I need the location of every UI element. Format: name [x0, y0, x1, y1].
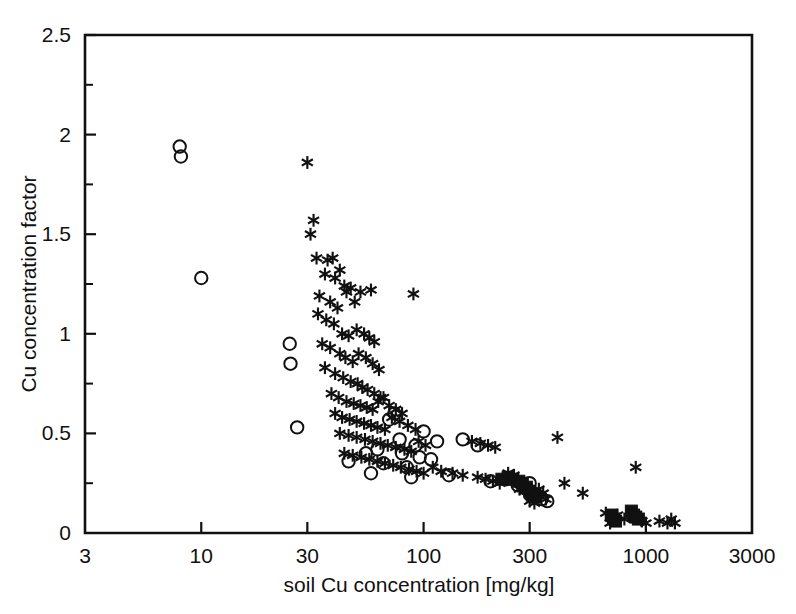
y-tick-label: 1	[59, 322, 71, 345]
point-asterisk	[365, 284, 376, 297]
point-asterisk	[319, 361, 330, 374]
point-asterisk	[353, 347, 364, 360]
y-tick-label: 1.5	[42, 222, 71, 245]
y-axis-label: Cu concentration factor	[17, 175, 40, 392]
point-asterisk	[333, 391, 344, 404]
point-circle	[195, 272, 207, 284]
point-asterisk	[325, 341, 336, 354]
point-asterisk	[330, 367, 341, 380]
y-tick-label: 2	[59, 123, 71, 146]
x-tick-label: 3000	[729, 544, 776, 567]
point-asterisk	[408, 288, 419, 301]
y-axis-ticks	[85, 35, 96, 483]
point-asterisk	[311, 252, 322, 265]
y-axis-tick-labels: 00.511.522.5	[42, 23, 71, 544]
point-circle	[284, 357, 296, 369]
point-circle	[291, 421, 303, 433]
x-tick-label: 10	[190, 544, 213, 567]
point-asterisk	[305, 228, 316, 241]
x-tick-label: 30	[296, 544, 319, 567]
axis-frame	[85, 35, 752, 533]
x-tick-label: 1000	[623, 544, 670, 567]
point-circle	[425, 453, 437, 465]
x-axis-label: soil Cu concentration [mg/kg]	[284, 573, 555, 596]
y-tick-label: 2.5	[42, 23, 71, 46]
x-axis-tick-labels: 3103010030010003000	[79, 544, 775, 567]
x-tick-label: 100	[406, 544, 441, 567]
point-circle	[284, 338, 296, 350]
point-asterisk	[314, 290, 325, 303]
point-asterisk	[308, 214, 319, 227]
point-asterisk	[326, 387, 337, 400]
point-asterisk	[327, 252, 338, 265]
data-points	[174, 140, 681, 529]
x-tick-label: 300	[512, 544, 547, 567]
y-tick-label: 0.5	[42, 421, 71, 444]
point-circle	[365, 467, 377, 479]
x-axis-ticks	[201, 522, 646, 533]
point-asterisk	[347, 355, 358, 368]
point-asterisk	[410, 423, 421, 436]
point-asterisk	[330, 407, 341, 420]
point-asterisk	[349, 296, 360, 309]
point-asterisk	[319, 268, 330, 281]
point-asterisk	[355, 286, 366, 299]
point-asterisk	[552, 431, 563, 444]
point-asterisk	[328, 317, 339, 330]
plot-border	[85, 35, 752, 533]
scatter-plot-figure: 3103010030010003000 00.511.522.5 soil Cu…	[0, 0, 796, 614]
point-asterisk	[302, 156, 313, 169]
x-tick-label: 3	[79, 544, 91, 567]
point-asterisk	[577, 487, 588, 500]
point-asterisk	[338, 371, 349, 384]
point-asterisk	[457, 469, 468, 482]
point-asterisk	[630, 461, 641, 474]
point-asterisk	[317, 337, 328, 350]
point-circle	[431, 435, 443, 447]
y-tick-label: 0	[59, 521, 71, 544]
point-asterisk	[402, 419, 413, 432]
point-asterisk	[559, 477, 570, 490]
plot-canvas: 3103010030010003000 00.511.522.5 soil Cu…	[0, 0, 796, 614]
